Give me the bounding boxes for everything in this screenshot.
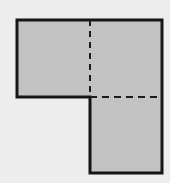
figure-canvas bbox=[0, 0, 170, 183]
l-shape-figure bbox=[0, 0, 170, 183]
